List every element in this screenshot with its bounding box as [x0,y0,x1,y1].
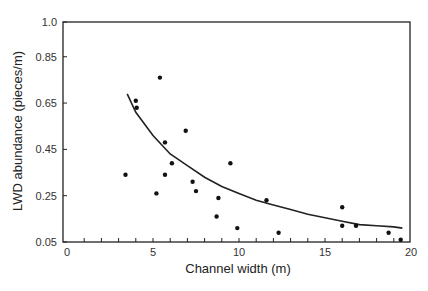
data-point [134,99,138,103]
y-tick-label: 1.0 [42,16,57,28]
data-point [123,173,127,177]
y-tick-label: 0.25 [36,190,57,202]
data-point [158,75,162,79]
data-point [170,161,174,165]
data-point [194,189,198,193]
data-point [399,238,403,242]
x-axis-title: Channel width (m) [185,261,291,276]
data-point [340,224,344,228]
data-point [184,129,188,133]
x-tick-label: 20 [405,246,417,258]
y-axis-title: LWD abundance (pieces/m) [10,51,25,211]
data-point [340,205,344,209]
data-point [214,214,218,218]
data-point [135,106,139,110]
x-axis: 05101520 [64,238,417,258]
plot-border [63,22,410,242]
y-tick-label: 0.45 [36,143,57,155]
data-point [154,191,158,195]
data-point [264,198,268,202]
data-point [190,180,194,184]
plot-frame [63,22,410,242]
y-tick-label: 0.65 [36,97,57,109]
data-point [163,173,167,177]
y-axis: 0.050.250.450.650.851.0 [36,16,67,248]
data-point [276,231,280,235]
data-point [354,224,358,228]
scatter-chart: 0.050.250.450.650.851.0 05101520 Channel… [0,0,428,291]
data-points [123,75,403,242]
data-point [228,161,232,165]
y-tick-label: 0.85 [36,51,57,63]
x-tick-label: 10 [233,246,245,258]
fitted-curve [127,94,402,228]
x-tick-label: 15 [319,246,331,258]
data-point [235,226,239,230]
curve-path [127,94,402,228]
data-point [216,196,220,200]
data-point [386,231,390,235]
x-tick-label: 0 [64,246,70,258]
y-tick-label: 0.05 [36,236,57,248]
x-tick-label: 5 [150,246,156,258]
data-point [163,140,167,144]
